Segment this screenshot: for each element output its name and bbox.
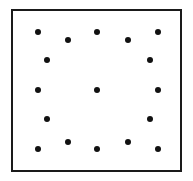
data-point [65,139,71,145]
data-point [35,87,41,93]
data-point [44,116,50,122]
data-point [125,139,131,145]
data-point [147,116,153,122]
data-point [94,87,100,93]
data-point [44,57,50,63]
dot-layer [0,0,193,181]
data-point [35,146,41,152]
data-point [155,29,161,35]
data-point [65,37,71,43]
figure-root [0,0,193,181]
data-point [94,146,100,152]
data-point [125,37,131,43]
data-point [155,146,161,152]
data-point [155,87,161,93]
data-point [147,57,153,63]
data-point [94,29,100,35]
data-point [35,29,41,35]
